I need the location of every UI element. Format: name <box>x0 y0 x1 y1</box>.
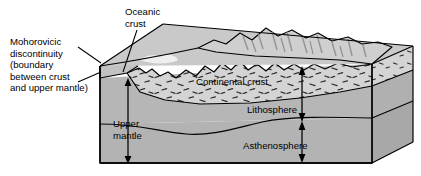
label-continental-crust: Continental crust <box>196 76 268 88</box>
block-right-face <box>372 46 413 163</box>
figure-canvas: Mohorovicic discontinuity (boundary betw… <box>0 0 421 176</box>
block-top-surface <box>100 24 413 66</box>
label-oceanic-crust: Oceanic crust <box>125 6 160 29</box>
label-lithosphere: Lithosphere <box>247 104 297 116</box>
label-asthenosphere: Asthenosphere <box>243 140 308 152</box>
label-mohorovicic-discontinuity: Mohorovicic discontinuity (boundary betw… <box>10 36 88 94</box>
label-upper-mantle: Upper mantle <box>113 118 142 142</box>
